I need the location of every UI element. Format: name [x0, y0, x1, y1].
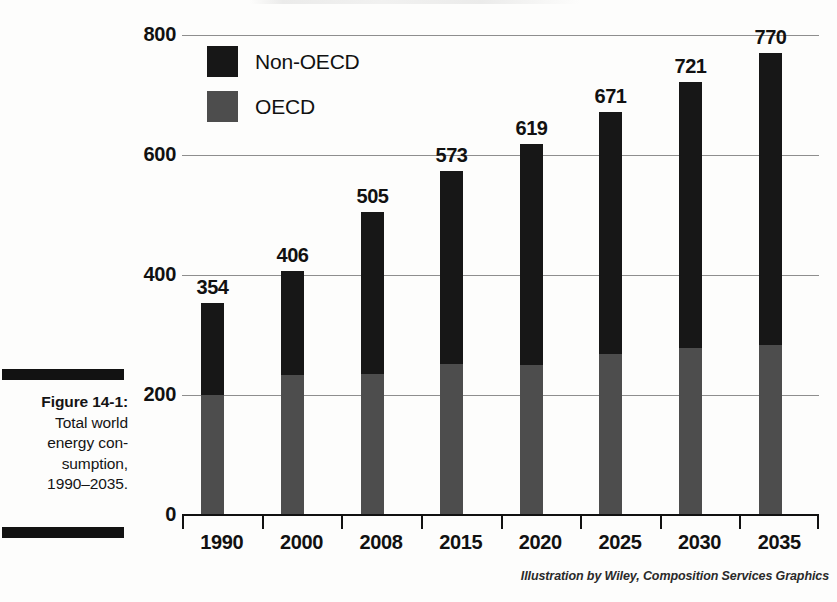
bar-segment-non-oecd-2030[interactable] — [679, 82, 702, 348]
bar-segment-non-oecd-2020[interactable] — [520, 144, 543, 365]
x-tick-2035 — [739, 516, 741, 529]
y-tick-label-400: 400 — [118, 263, 176, 286]
bar-2015[interactable] — [440, 171, 463, 515]
bar-segment-oecd-2025[interactable] — [599, 354, 622, 514]
bar-segment-non-oecd-2000[interactable] — [281, 271, 304, 375]
illustration-credit: Illustration by Wiley, Composition Servi… — [521, 569, 829, 583]
x-tick-label-2030: 2030 — [663, 531, 737, 554]
y-tick-label-0: 0 — [118, 503, 176, 526]
bar-total-label-2020: 619 — [495, 117, 569, 140]
bar-2000[interactable] — [281, 271, 304, 515]
bar-1990[interactable] — [201, 303, 224, 515]
legend-label-non-oecd: Non-OECD — [255, 50, 360, 74]
y-tick-label-600: 600 — [118, 143, 176, 166]
y-tick-label-200: 200 — [118, 383, 176, 406]
y-tick-label-800: 800 — [118, 23, 176, 46]
bar-segment-oecd-1990[interactable] — [201, 395, 224, 515]
x-tick-label-2020: 2020 — [503, 531, 577, 554]
x-tick-label-2000: 2000 — [264, 531, 338, 554]
gridline-200 — [182, 395, 819, 396]
chart-plot-area: 0200400600800 Non-OECD OECD 354406505573… — [0, 0, 837, 602]
x-tick-1990 — [182, 516, 184, 529]
bar-2008[interactable] — [361, 212, 384, 515]
x-tick-label-2035: 2035 — [742, 531, 816, 554]
x-tick-label-2015: 2015 — [424, 531, 498, 554]
gridline-400 — [182, 275, 819, 276]
bar-2030[interactable] — [679, 82, 702, 515]
bar-segment-oecd-2000[interactable] — [281, 375, 304, 514]
bar-segment-non-oecd-2008[interactable] — [361, 212, 384, 374]
figure-root: Figure 14-1: Total world energy con- sum… — [0, 0, 837, 602]
x-tick-2030 — [660, 516, 662, 529]
bar-segment-non-oecd-2015[interactable] — [440, 171, 463, 364]
chart-legend: Non-OECD OECD — [207, 46, 360, 136]
bar-total-label-2015: 573 — [415, 144, 489, 167]
bar-segment-oecd-2035[interactable] — [759, 345, 782, 515]
bar-total-label-2000: 406 — [256, 244, 330, 267]
bar-2020[interactable] — [520, 144, 543, 515]
non-oecd-swatch-icon — [207, 46, 238, 77]
bar-segment-oecd-2015[interactable] — [440, 364, 463, 515]
gridline-600 — [182, 155, 819, 156]
x-tick-label-2008: 2008 — [344, 531, 418, 554]
bar-segment-oecd-2030[interactable] — [679, 348, 702, 515]
x-tick-label-2025: 2025 — [583, 531, 657, 554]
bar-segment-non-oecd-2025[interactable] — [599, 112, 622, 354]
bar-total-label-2008: 505 — [336, 185, 410, 208]
bar-total-label-2030: 721 — [654, 55, 728, 78]
legend-item-oecd[interactable]: OECD — [207, 91, 360, 122]
x-tick-2008 — [341, 516, 343, 529]
bar-segment-non-oecd-2035[interactable] — [759, 53, 782, 345]
legend-item-non-oecd[interactable]: Non-OECD — [207, 46, 360, 77]
x-tick-2025 — [580, 516, 582, 529]
legend-label-oecd: OECD — [255, 95, 315, 119]
bar-2025[interactable] — [599, 112, 622, 515]
gridline-800 — [182, 35, 819, 36]
x-tick-end — [817, 516, 819, 529]
x-tick-label-1990: 1990 — [185, 531, 259, 554]
bar-total-label-1990: 354 — [176, 276, 250, 299]
bar-segment-oecd-2008[interactable] — [361, 374, 384, 515]
bar-2035[interactable] — [759, 53, 782, 515]
bar-total-label-2035: 770 — [734, 26, 808, 49]
bar-segment-non-oecd-1990[interactable] — [201, 303, 224, 395]
x-tick-2020 — [501, 516, 503, 529]
x-tick-2015 — [421, 516, 423, 529]
oecd-swatch-icon — [207, 91, 238, 122]
x-tick-2000 — [262, 516, 264, 529]
bar-segment-oecd-2020[interactable] — [520, 365, 543, 516]
bar-total-label-2025: 671 — [574, 85, 648, 108]
